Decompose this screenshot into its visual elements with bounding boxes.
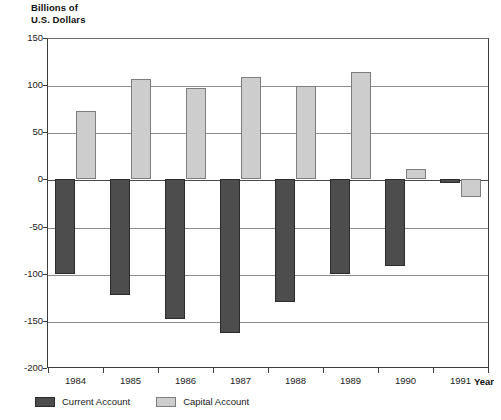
bar-current-account-1984	[55, 179, 75, 273]
y-tick-label: 0	[3, 174, 43, 184]
x-tick-mark	[488, 368, 489, 373]
legend-label: Capital Account	[183, 396, 249, 407]
y-axis-ticks: 150100500-50-100-150-200	[0, 38, 43, 368]
legend-item-current[interactable]: Current Account	[35, 396, 130, 407]
x-tick-label-1988: 1988	[272, 375, 320, 386]
y-tick-label: -50	[3, 222, 43, 232]
y-tick-label: -200	[3, 363, 43, 373]
legend-item-capital[interactable]: Capital Account	[156, 396, 249, 407]
legend-swatch-current-icon	[35, 397, 55, 407]
x-tick-mark	[323, 368, 324, 373]
x-tick-mark	[433, 368, 434, 373]
bar-capital-account-1986	[186, 88, 206, 179]
x-tick-mark	[103, 368, 104, 373]
x-axis-title: Year	[474, 376, 494, 387]
bar-current-account-1988	[275, 179, 295, 302]
x-tick-label-1984: 1984	[52, 375, 100, 386]
x-tick-label-1985: 1985	[107, 375, 155, 386]
legend-label: Current Account	[62, 396, 130, 407]
y-tick-label: 50	[3, 127, 43, 137]
bar-capital-account-1988	[296, 86, 316, 179]
y-tick-label: 150	[3, 33, 43, 43]
bar-current-account-1986	[165, 179, 185, 319]
y-tick-label: -100	[3, 269, 43, 279]
y-tick-label: 100	[3, 80, 43, 90]
bar-current-account-1990	[385, 179, 405, 266]
x-tick-label-1986: 1986	[162, 375, 210, 386]
bar-current-account-1987	[220, 179, 240, 333]
x-tick-label-1990: 1990	[382, 375, 430, 386]
bar-capital-account-1984	[76, 111, 96, 180]
bar-capital-account-1989	[351, 72, 371, 179]
bar-capital-account-1987	[241, 77, 261, 180]
x-axis: 19841985198619871988198919901991	[48, 368, 488, 398]
y-tick-mark	[43, 368, 47, 369]
bar-capital-account-1985	[131, 79, 151, 179]
x-tick-mark	[48, 368, 49, 373]
x-tick-mark	[268, 368, 269, 373]
bar-current-account-1985	[110, 179, 130, 295]
bars-layer	[48, 38, 488, 368]
x-tick-mark	[158, 368, 159, 373]
x-tick-label-1987: 1987	[217, 375, 265, 386]
x-tick-label-1989: 1989	[327, 375, 375, 386]
y-axis-title: Billions of U.S. Dollars	[31, 2, 86, 25]
bar-chart: Billions of U.S. Dollars 150100500-50-10…	[0, 0, 501, 420]
x-tick-mark	[378, 368, 379, 373]
bar-capital-account-1991	[461, 179, 481, 197]
bar-current-account-1989	[330, 179, 350, 273]
bar-current-account-1991	[440, 179, 460, 183]
chart-legend: Current AccountCapital Account	[35, 396, 249, 407]
x-tick-mark	[213, 368, 214, 373]
y-tick-label: -150	[3, 316, 43, 326]
legend-swatch-capital-icon	[156, 397, 176, 407]
bar-capital-account-1990	[406, 169, 426, 179]
